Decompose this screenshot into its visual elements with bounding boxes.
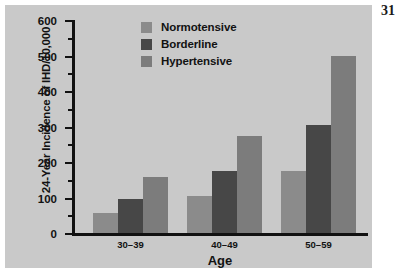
bar-normotensive-40–49 [187,196,212,233]
x-group-label-1: 40–49 [211,239,237,250]
y-tick-label-500: 500 [38,51,57,63]
y-axis-spine [72,20,75,233]
y-tick-label-300: 300 [38,122,57,134]
y-tick-0: 0 [65,233,72,235]
x-axis-spine [72,233,368,236]
y-tick-350 [68,109,73,111]
page-number: 31 [381,3,411,19]
y-tick-label-0: 0 [51,228,57,240]
y-tick-400: 400 [65,91,72,93]
bar-hypertensive-50–59 [331,56,356,234]
bar-normotensive-50–59 [281,171,306,233]
bar-borderline-40–49 [212,171,237,233]
y-axis-title: 24-Year Incidence of IHD/10,000 [40,5,52,215]
y-tick-100: 100 [65,198,72,200]
y-tick-label-200: 200 [38,157,57,169]
bar-borderline-30–39 [118,199,143,233]
x-group-label-2: 50–59 [305,239,331,250]
y-tick-450 [68,73,73,75]
y-tick-50 [68,215,73,217]
bar-borderline-50–59 [306,125,331,233]
y-tick-500: 500 [65,56,72,58]
y-tick-label-600: 600 [38,15,57,27]
y-tick-200: 200 [65,162,72,164]
bar-hypertensive-30–39 [143,177,168,233]
y-tick-label-100: 100 [38,193,57,205]
x-axis-title: Age [72,253,368,268]
y-tick-600: 600 [65,20,72,22]
y-tick-550 [68,38,73,40]
figure-panel: 24-Year Incidence of IHD/10,000 Normoten… [5,5,372,268]
bar-hypertensive-40–49 [237,136,262,233]
y-tick-300: 300 [65,127,72,129]
x-group-label-0: 30–39 [117,239,143,250]
plot-area: 0100200300400500600 30–3940–4950–59 Age [72,20,368,233]
y-tick-150 [68,180,73,182]
bar-normotensive-30–39 [93,213,118,233]
y-tick-250 [68,144,73,146]
y-tick-label-400: 400 [38,86,57,98]
